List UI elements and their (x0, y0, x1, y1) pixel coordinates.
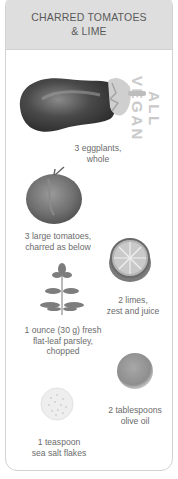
eggplant-icon (12, 67, 148, 139)
recipe-title-line1: CHARRED TOMATOES (6, 11, 172, 24)
label-line: olive oil (108, 416, 162, 427)
recipe-title-line2: & LIME (6, 25, 172, 38)
label-line: charred as below (25, 242, 91, 253)
ingredient-label-eggplants: 3 eggplants, whole (75, 143, 122, 164)
olive-oil-icon (115, 351, 155, 391)
label-line: 3 large tomatoes, (25, 231, 91, 242)
label-line: sea salt flakes (32, 448, 86, 459)
lime-icon (107, 237, 153, 283)
label-line: 3 eggplants, (75, 143, 122, 154)
sea-salt-icon (39, 386, 75, 422)
label-line: 1 ounce (30 g) fresh (25, 325, 102, 336)
card-header: CHARRED TOMATOES & LIME (6, 0, 172, 50)
label-line: zest and juice (107, 306, 160, 317)
ingredient-label-sea-salt: 1 teaspoon sea salt flakes (32, 437, 86, 458)
recipe-ingredients-card: CHARRED TOMATOES & LIME ALL VEGAN 3 eggp… (5, 0, 173, 471)
label-line: flat-leaf parsley, (25, 336, 102, 347)
ingredient-label-tomatoes: 3 large tomatoes, charred as below (25, 231, 91, 252)
label-line: 2 limes, (107, 295, 160, 306)
label-line: chopped (25, 346, 102, 357)
label-line: whole (75, 154, 122, 165)
tomato-icon (24, 165, 84, 227)
ingredient-label-olive-oil: 2 tablespoons olive oil (108, 405, 162, 426)
parsley-icon (40, 261, 84, 315)
ingredient-label-parsley: 1 ounce (30 g) fresh flat-leaf parsley, … (25, 325, 102, 357)
label-line: 2 tablespoons (108, 405, 162, 416)
ingredient-label-limes: 2 limes, zest and juice (107, 295, 160, 316)
label-line: 1 teaspoon (32, 437, 86, 448)
